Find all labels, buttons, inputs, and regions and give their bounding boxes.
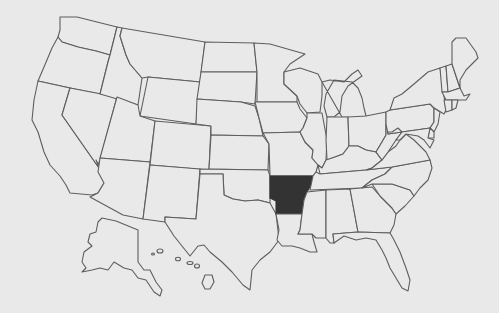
states-layer: WashingtonOregonCaliforniaNevadaIdahoMon… bbox=[32, 17, 478, 296]
hawaii-island bbox=[195, 264, 200, 268]
state-colorado[interactable]: Colorado bbox=[150, 121, 211, 170]
state-new-mexico[interactable]: New Mexico bbox=[143, 165, 200, 222]
hawaii-island bbox=[187, 262, 193, 265]
hawaii-island bbox=[152, 253, 155, 255]
state-hawaii[interactable]: Hawaii bbox=[202, 275, 214, 289]
state-iowa[interactable]: Iowa bbox=[255, 102, 307, 133]
state-alaska[interactable]: Alaska bbox=[82, 218, 162, 296]
state-wyoming[interactable]: Wyoming bbox=[140, 77, 200, 124]
state-kansas[interactable]: Kansas bbox=[209, 135, 269, 170]
hawaii-island bbox=[176, 257, 181, 261]
hawaii-island bbox=[157, 249, 163, 253]
state-north-dakota[interactable]: North Dakota bbox=[201, 42, 257, 72]
state-rhode-island[interactable]: Rhode Island bbox=[452, 100, 458, 110]
us-map-svg: WashingtonOregonCaliforniaNevadaIdahoMon… bbox=[0, 0, 499, 313]
state-florida[interactable]: Florida bbox=[333, 232, 410, 291]
state-connecticut[interactable]: Connecticut bbox=[444, 100, 452, 112]
state-michigan[interactable]: Michigan bbox=[322, 70, 366, 118]
us-map: United States map with one state highlig… bbox=[0, 0, 499, 313]
